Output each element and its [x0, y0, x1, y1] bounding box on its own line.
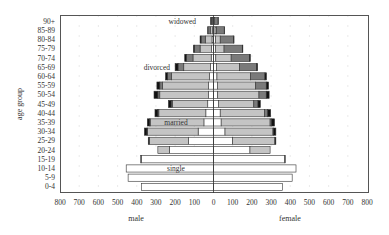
bar-male-divorced	[154, 91, 158, 98]
bar-male-widowed	[186, 54, 193, 61]
y-axis-title: age group	[15, 88, 24, 120]
y-tick-label: 15-19	[38, 155, 56, 164]
y-tick-label: 55-59	[38, 81, 56, 90]
x-tick-label: 0	[212, 198, 216, 207]
x-axis-ticks: 8007006005004003002001000100200300400500…	[54, 198, 373, 207]
bar-female-divorced	[268, 110, 271, 117]
bar-male-married	[200, 45, 212, 52]
bar-female-widowed	[217, 27, 225, 34]
bar-male-married	[163, 82, 209, 89]
bar-female-single	[214, 73, 217, 80]
bar-male-divorced	[144, 128, 146, 135]
bar-male-divorced	[211, 18, 212, 25]
y-tick-label: 80-84	[38, 35, 56, 44]
bar-male-single	[211, 64, 214, 71]
bar-male-married	[172, 100, 207, 107]
annotation-widowed: widowed	[169, 17, 197, 26]
bar-female-married	[217, 73, 251, 80]
bar-female-widowed	[259, 91, 266, 98]
x-tick-label: 200	[170, 198, 182, 207]
bar-female-married	[218, 100, 253, 107]
bar-female-widowed	[231, 54, 249, 61]
bar-female-widowed	[224, 45, 242, 52]
bar-male-single	[169, 146, 213, 153]
bar-female-widowed	[254, 100, 258, 107]
bar-female-married	[216, 64, 239, 71]
bar-male-married	[160, 91, 209, 98]
population-pyramid-chart: 0-45-910-1415-1920-2425-2930-3435-3940-4…	[0, 0, 389, 235]
bar-female-married	[220, 110, 264, 117]
bar-female-single	[214, 146, 250, 153]
bar-male-divorced	[175, 64, 178, 71]
bar-male-widowed	[194, 45, 200, 52]
bar-male-widowed	[178, 64, 184, 71]
bar-male-married	[158, 146, 170, 153]
bar-female-divorced	[249, 54, 250, 61]
y-tick-label: 85-89	[38, 26, 56, 35]
x-tick-label: 100	[227, 198, 239, 207]
bar-female-widowed	[214, 18, 218, 25]
bar-male-married	[205, 36, 212, 43]
bar-male-single	[210, 73, 214, 80]
bar-male-divorced	[185, 54, 187, 61]
y-tick-label: 0-4	[45, 182, 55, 191]
annotation-married: married	[164, 118, 188, 127]
y-tick-label: 5-9	[45, 173, 55, 182]
y-tick-label: 20-24	[38, 146, 56, 155]
bar-female-divorced	[266, 91, 269, 98]
bar-female-married	[250, 146, 270, 153]
y-tick-label: 30-34	[38, 127, 56, 136]
bar-male-single	[209, 91, 214, 98]
bar-male-single	[189, 137, 214, 144]
bars	[126, 18, 296, 191]
y-tick-label: 60-64	[38, 72, 56, 81]
y-axis-labels: 0-45-910-1415-1920-2425-2930-3435-3940-4…	[38, 17, 56, 192]
bar-male-widowed	[201, 36, 205, 43]
bar-male-divorced	[168, 100, 171, 107]
bar-male-married	[149, 137, 188, 144]
x-tick-label: 600	[93, 198, 105, 207]
bar-female-divorced	[257, 64, 258, 71]
bar-female-divorced	[265, 73, 267, 80]
bar-male-married	[210, 27, 212, 34]
x-tick-label: 800	[361, 198, 373, 207]
bar-male-divorced	[148, 137, 149, 144]
bar-female-divorced	[266, 82, 268, 89]
bar-female-single	[214, 128, 226, 135]
bar-female-single	[214, 183, 283, 190]
x-axis-title-female: female	[279, 214, 301, 223]
y-tick-label: 25-29	[38, 136, 56, 145]
x-tick-label: 700	[74, 198, 86, 207]
y-tick-label: 40-44	[38, 109, 56, 118]
bar-male-divorced	[200, 36, 201, 43]
bar-female-single	[214, 91, 218, 98]
bar-male-single	[142, 183, 214, 190]
bar-female-married	[216, 54, 231, 61]
y-tick-label: 50-54	[38, 90, 56, 99]
bar-female-married	[233, 137, 275, 144]
x-tick-label: 200	[246, 198, 258, 207]
bar-female-single	[214, 165, 297, 172]
bar-female-married	[225, 128, 273, 135]
bar-female-married	[221, 119, 270, 126]
bar-female-widowed	[251, 73, 265, 80]
x-tick-label: 100	[189, 198, 201, 207]
x-axis-title-male: male	[128, 214, 144, 223]
bar-female-married	[215, 45, 224, 52]
bar-female-single	[214, 64, 217, 71]
y-tick-label: 65-69	[38, 63, 56, 72]
bar-male-single	[209, 82, 214, 89]
bar-male-single	[206, 110, 214, 117]
bar-male-married	[184, 64, 211, 71]
bar-male-divorced	[147, 119, 149, 126]
bar-female-divorced	[258, 100, 260, 107]
bar-male-married	[171, 73, 209, 80]
bar-male-single	[208, 100, 214, 107]
bar-male-married	[193, 54, 211, 61]
annotation-single: single	[167, 164, 186, 173]
bar-female-single	[214, 137, 233, 144]
bar-female-widowed	[264, 110, 267, 117]
bar-male-widowed	[167, 73, 171, 80]
bar-female-single	[214, 100, 219, 107]
x-tick-label: 300	[265, 198, 277, 207]
